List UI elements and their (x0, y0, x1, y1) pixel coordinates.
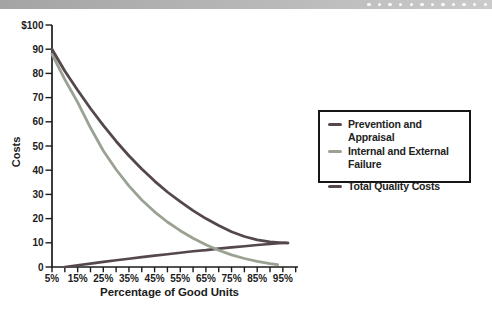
page: 0102030405060708090$1005%15%25%35%45%55%… (0, 0, 492, 320)
legend-label: Prevention and Appraisal (348, 118, 469, 144)
legend-item-internal-external-failure: Internal and External Failure (326, 145, 469, 171)
prevention-line-marker (328, 123, 342, 126)
total-line-marker (328, 185, 342, 188)
x-tick-label: 95% (273, 273, 293, 284)
y-tick-label: $100 (21, 20, 44, 31)
y-tick-label: 40 (32, 165, 44, 176)
x-tick-label: 45% (145, 273, 165, 284)
y-tick-label: 80 (32, 68, 44, 79)
series-line-1 (52, 54, 278, 265)
legend-label: Total Quality Costs (348, 180, 469, 193)
series-line-0 (65, 243, 286, 267)
legend-item-prevention-appraisal: Prevention and Appraisal (326, 118, 469, 144)
x-tick-label: 25% (93, 273, 113, 284)
x-axis-title: Percentage of Good Units (52, 286, 287, 298)
y-tick-label: 10 (32, 237, 44, 248)
y-tick-label: 0 (38, 262, 44, 273)
y-tick-label: 70 (32, 92, 44, 103)
x-tick-label: 5% (45, 273, 60, 284)
axes (52, 25, 298, 267)
legend-item-total-quality-costs: Total Quality Costs (326, 180, 469, 193)
y-tick-label: 90 (32, 44, 44, 55)
chart-legend: Prevention and Appraisal Internal and Ex… (318, 110, 471, 183)
x-tick-label: 35% (119, 273, 139, 284)
y-tick-label: 50 (32, 141, 44, 152)
x-tick-label: 15% (68, 273, 88, 284)
x-tick-label: 85% (247, 273, 267, 284)
x-tick-label: 65% (196, 273, 216, 284)
y-tick-label: 30 (32, 189, 44, 200)
y-axis-title: Costs (10, 130, 22, 174)
y-tick-label: 60 (32, 116, 44, 127)
y-tick-label: 20 (32, 213, 44, 224)
legend-label: Internal and External Failure (348, 145, 469, 171)
x-tick-label: 75% (222, 273, 242, 284)
series-line-2 (52, 49, 288, 243)
failure-line-marker (328, 150, 342, 153)
x-tick-label: 55% (170, 273, 190, 284)
